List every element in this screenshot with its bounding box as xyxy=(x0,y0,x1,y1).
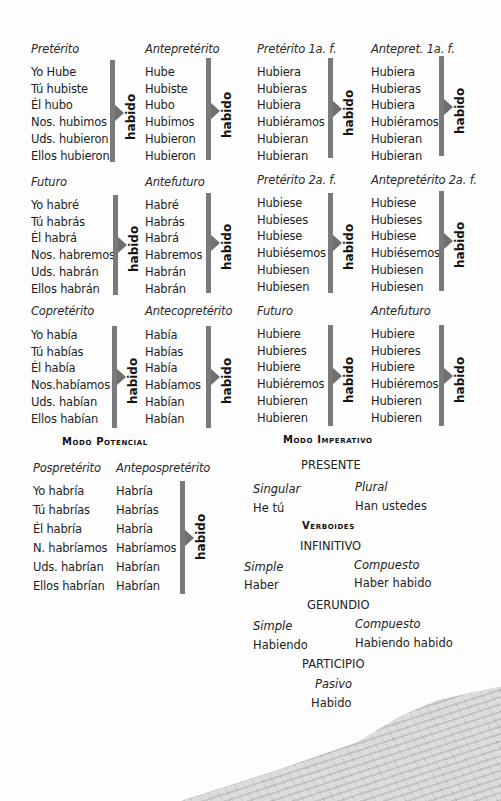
conjugation-list-antepospreterito: Habría Habrías Habría Habríamos Habrían … xyxy=(116,482,176,596)
form: Hubieren xyxy=(257,393,324,410)
form: Hubiera xyxy=(371,97,439,114)
form: Él habrá xyxy=(31,230,115,247)
form: Yo habría xyxy=(33,482,107,501)
tense-header-copreterito: Copretérito xyxy=(31,304,94,318)
infinitive-compound: Haber habido xyxy=(354,576,432,590)
arrow-right-icon xyxy=(333,368,342,384)
participle-label: habido xyxy=(342,224,356,270)
participle-label: habido xyxy=(453,88,467,134)
form: Hubieron xyxy=(145,148,196,165)
participle-label: habido xyxy=(342,357,356,403)
infinitive-simple: Haber xyxy=(244,578,279,592)
form: Hubiese xyxy=(371,195,440,212)
form: Tú habrás xyxy=(31,214,115,231)
participle-label: habido xyxy=(453,357,467,403)
form: Hubiesen xyxy=(257,279,326,296)
arrow-right-icon xyxy=(185,530,194,546)
arrow-right-icon xyxy=(211,235,220,251)
form: Nos. habremos xyxy=(31,247,115,264)
conjugation-list-antepreterito-2a: Hubiese Hubieses Hubiese Hubiésemos Hubi… xyxy=(371,195,440,295)
form: Habrá xyxy=(145,230,202,247)
form: Hubiese xyxy=(257,228,326,245)
form: Hubiesen xyxy=(257,262,326,279)
form: Hubiere xyxy=(257,326,324,343)
form: Habrán xyxy=(145,264,202,281)
participle-label: habido xyxy=(220,92,234,138)
conjugation-list-antecopreterito: Había Habías Había Habíamos Habían Había… xyxy=(145,327,201,427)
tense-header-antepreterito: Antepretérito xyxy=(145,42,219,56)
form: Yo había xyxy=(31,327,110,344)
form: Habría xyxy=(116,520,176,539)
form: Hubieses xyxy=(371,212,440,229)
form: Uds. hubieron xyxy=(31,131,110,148)
form: N. habríamos xyxy=(33,539,107,558)
form: Hubiésemos xyxy=(257,245,326,262)
participle-value: Habido xyxy=(311,696,352,710)
plural-form: Han ustedes xyxy=(355,499,427,513)
form: Hubieres xyxy=(257,343,324,360)
participle-label: habido xyxy=(127,226,141,272)
form: Hubiéremos xyxy=(257,376,324,393)
form: Hubieres xyxy=(371,343,438,360)
tense-header-pospreterito: Pospretérito xyxy=(33,461,101,475)
form: Él habría xyxy=(33,520,107,539)
form: Hubieren xyxy=(257,410,324,427)
conjugation-list-antepret-1a: Hubiera Hubieras Hubiera Hubiéramos Hubi… xyxy=(371,64,439,164)
tense-header-preterito-1a: Pretérito 1a. f. xyxy=(257,42,336,56)
arrow-right-icon xyxy=(444,99,453,115)
tense-header-antefuturo-subj: Antefuturo xyxy=(371,304,431,318)
gerund-simple-label: Simple xyxy=(253,619,292,633)
conjugation-list-preterito-2a: Hubiese Hubieses Hubiese Hubiésemos Hubi… xyxy=(257,195,326,295)
conjugation-list-antepreterito: Hube Hubiste Hubo Hubimos Hubieron Hubie… xyxy=(145,64,196,164)
form: Uds. habrán xyxy=(31,264,115,281)
form: Hubiese xyxy=(257,195,326,212)
conjugation-list-copreterito: Yo había Tú habías Él había Nos.habíamos… xyxy=(31,327,110,427)
tense-header-antefuturo: Antefuturo xyxy=(145,175,205,189)
form: Hubieran xyxy=(257,131,325,148)
section-title-verboides: Verboides xyxy=(302,520,355,531)
form: Tú hubiste xyxy=(31,81,110,98)
section-title-potencial: Modo Potencial xyxy=(62,436,148,447)
form: Habíamos xyxy=(145,377,201,394)
form: Tú habías xyxy=(31,344,110,361)
present-label: PRESENTE xyxy=(301,458,361,472)
form: Hube xyxy=(145,64,196,81)
arrow-right-icon xyxy=(118,237,127,253)
arrow-right-icon xyxy=(333,101,342,117)
conjugation-list-preterito: Yo Hube Tú hubiste Él hubo Nos. hubimos … xyxy=(31,64,110,164)
form: Nos. hubimos xyxy=(31,114,110,131)
form: Habría xyxy=(116,482,176,501)
section-title-imperativo: Modo Imperativo xyxy=(283,434,373,445)
form: Hubiéramos xyxy=(257,114,325,131)
conjugation-list-antefuturo: Habré Habrás Habrá Habremos Habrán Habrá… xyxy=(145,197,202,297)
gerund-compound-label: Compuesto xyxy=(355,617,420,631)
singular-label: Singular xyxy=(253,482,300,496)
form: Nos.habíamos xyxy=(31,377,110,394)
form: Habían xyxy=(145,394,201,411)
form: Habían xyxy=(145,411,201,428)
form: Hubiera xyxy=(257,64,325,81)
form: Yo habré xyxy=(31,197,115,214)
gerund-simple: Habiendo xyxy=(253,638,308,652)
participle-label: habido xyxy=(126,358,140,404)
arrow-right-icon xyxy=(115,105,124,121)
form: Hubieses xyxy=(257,212,326,229)
form: Habrías xyxy=(116,501,176,520)
form: Hubiera xyxy=(371,64,439,81)
form: Hubiere xyxy=(257,359,324,376)
participle-label: habido xyxy=(453,222,467,268)
infinitive-simple-label: Simple xyxy=(244,560,283,574)
form: Había xyxy=(145,327,201,344)
conjugation-list-pospreterito: Yo habría Tú habrías Él habría N. habría… xyxy=(33,482,107,596)
tense-header-antepret-1a: Antepret. 1a. f. xyxy=(371,42,455,56)
form: Habrán xyxy=(145,281,202,298)
form: Hubiese xyxy=(371,228,440,245)
participle-section-label: PARTICIPIO xyxy=(302,657,364,671)
form: Habremos xyxy=(145,247,202,264)
form: Habríamos xyxy=(116,539,176,558)
form: Ellos habían xyxy=(31,411,110,428)
tense-header-futuro-subj: Futuro xyxy=(257,304,293,318)
form: Hubiste xyxy=(145,81,196,98)
form: Él había xyxy=(31,360,110,377)
form: Habré xyxy=(145,197,202,214)
